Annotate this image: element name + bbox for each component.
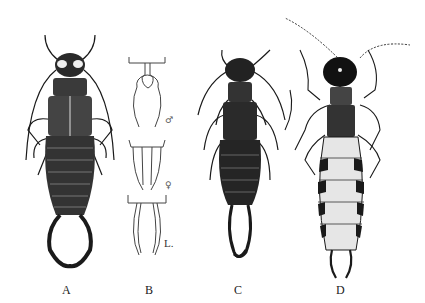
male-symbol: ♂ bbox=[165, 115, 173, 125]
larva-symbol: L. bbox=[164, 237, 173, 249]
figure-b-forceps-details bbox=[125, 55, 170, 265]
figure-a-earwig bbox=[20, 30, 120, 270]
figure-d-earwig bbox=[280, 10, 420, 280]
figure-c-earwig bbox=[190, 40, 290, 280]
figure-c-label: C bbox=[234, 283, 242, 298]
figure-b-label: B bbox=[145, 283, 153, 298]
figure-a-label: A bbox=[62, 283, 71, 298]
figure-d-label: D bbox=[336, 283, 345, 298]
female-symbol: ♀ bbox=[165, 180, 172, 190]
